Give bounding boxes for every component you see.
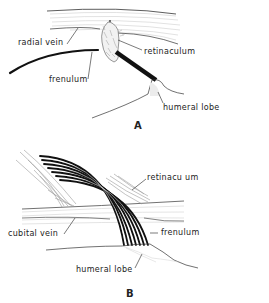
label-retinaculum-b: retinacu um bbox=[147, 174, 199, 182]
panel-b-wing-lower-edge bbox=[144, 218, 184, 221]
panel-a-radial-vein-edge bbox=[50, 28, 100, 30]
panel-a-frenulum-base bbox=[116, 52, 156, 80]
panel-a-frenulum bbox=[10, 50, 98, 73]
panel-b-leader-lines bbox=[64, 179, 158, 268]
panel-a-wing-lower-edge bbox=[118, 33, 178, 44]
panel-letter-b: B bbox=[126, 289, 134, 299]
panel-a-drawing bbox=[10, 9, 184, 118]
label-frenulum-a: frenulum bbox=[49, 76, 87, 84]
label-cubital-vein: cubital vein bbox=[8, 230, 58, 238]
label-radial-vein: radial vein bbox=[18, 39, 63, 47]
label-humeral-lobe-a: humeral lobe bbox=[163, 104, 220, 112]
label-frenulum-b: frenulum bbox=[161, 229, 199, 237]
panel-a-humeral-lobe bbox=[92, 80, 184, 118]
panel-letter-a: A bbox=[134, 121, 142, 131]
label-retinaculum-a: retinaculum bbox=[144, 48, 195, 56]
panel-b-drawing bbox=[16, 150, 198, 268]
panel-b-wing-band bbox=[22, 206, 184, 224]
label-humeral-lobe-b: humeral lobe bbox=[76, 266, 133, 274]
panel-b-wing-upper-edge bbox=[22, 201, 184, 209]
